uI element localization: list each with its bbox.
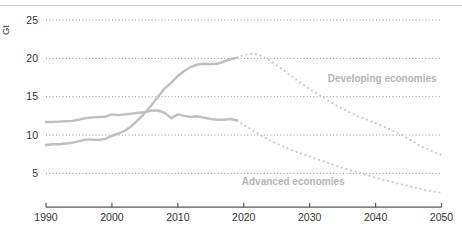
x-tick-label-2030: 2030 (298, 211, 322, 223)
series-label-developing-economies: Developing economies (328, 73, 437, 84)
x-tick-label-1990: 1990 (34, 211, 58, 223)
series-label-advanced-economies: Advanced economies (242, 176, 345, 187)
x-tick-label-2050: 2050 (430, 211, 454, 223)
emissions-chart: 510152025GtDeveloping economiesAdvanced … (0, 0, 462, 233)
y-tick-label-5: 5 (32, 167, 38, 179)
y-tick-label-25: 25 (26, 14, 38, 26)
y-axis-unit-label: Gt (0, 25, 11, 35)
x-tick-label-2020: 2020 (232, 211, 256, 223)
x-tick-label-2010: 2010 (166, 211, 190, 223)
series-line-developing-historical (46, 58, 237, 145)
x-tick-label-2040: 2040 (364, 211, 388, 223)
x-tick-label-2000: 2000 (100, 211, 124, 223)
series-line-developing-projection (237, 54, 441, 155)
emissions-chart-figure: 510152025GtDeveloping economiesAdvanced … (0, 0, 462, 233)
y-tick-label-10: 10 (26, 129, 38, 141)
y-tick-label-15: 15 (26, 90, 38, 102)
y-tick-label-20: 20 (26, 52, 38, 64)
